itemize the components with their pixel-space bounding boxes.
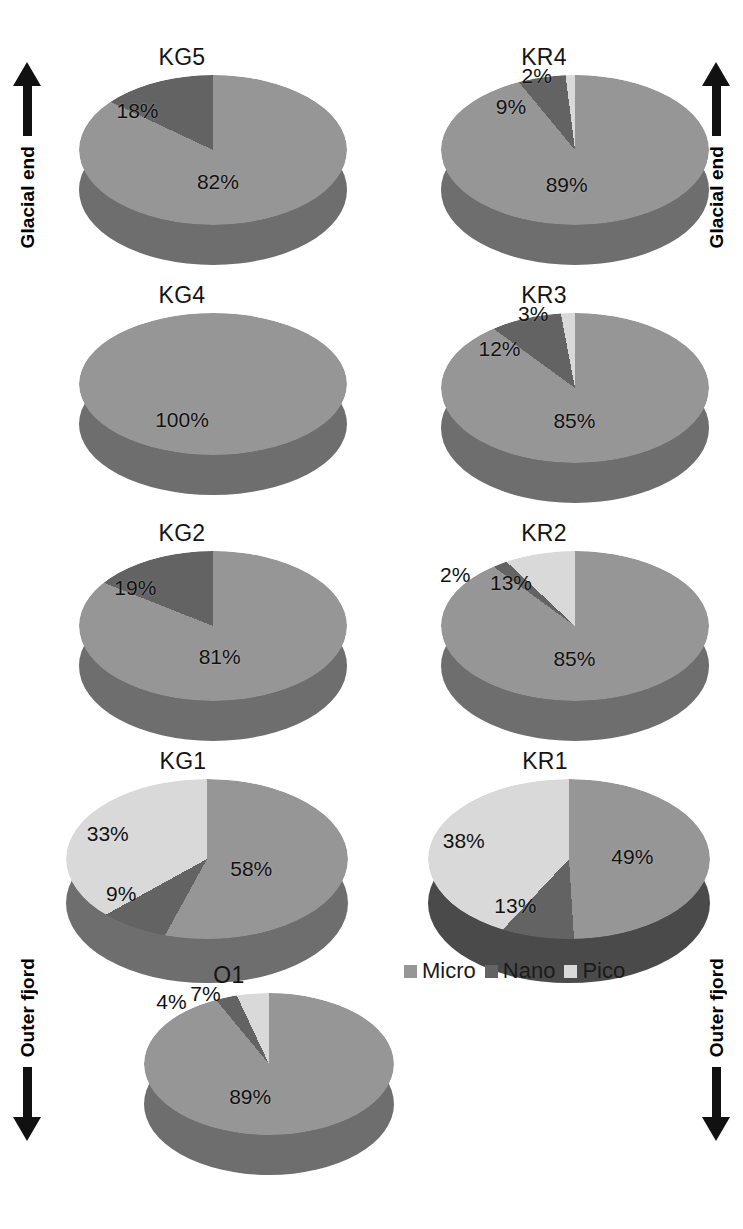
axis-glacial-end-left: Glacial end — [0, 62, 54, 248]
pie-slice-label: 9% — [106, 882, 136, 906]
pie-chart-kr4: 89%9%2% — [410, 75, 740, 265]
pie-slice-label: 9% — [496, 95, 526, 119]
axis-outer-fjord-right: Outer fjord — [689, 958, 743, 1141]
pie-top-face — [428, 779, 710, 939]
legend-item-pico: Pico — [564, 958, 625, 984]
pie-panel-kg1: KG158%9%33% — [42, 748, 324, 983]
pie-slice-label: 85% — [553, 409, 595, 433]
pie-chart-kg1: 58%9%33% — [42, 779, 372, 983]
legend-item-micro: Micro — [404, 958, 476, 984]
pie-slice-label: 89% — [229, 1085, 271, 1109]
pie-slice-label: 49% — [611, 845, 653, 869]
pie-title-kg2: KG2 — [48, 520, 316, 547]
pie-panel-kr1: KR149%13%38% — [404, 748, 686, 983]
legend-item-nano: Nano — [485, 958, 556, 984]
legend-swatch-micro — [404, 965, 417, 978]
pie-panel-o1: O189%4%7% — [104, 962, 354, 1175]
pie-slice-label: 19% — [114, 576, 156, 600]
pie-slice-label: 81% — [199, 645, 241, 669]
pie-top-face — [79, 313, 347, 455]
pie-chart-kg2: 81%19% — [48, 551, 378, 741]
pie-slice-label: 18% — [116, 99, 158, 123]
pie-slice-label: 38% — [443, 829, 485, 853]
arrow-down-icon — [12, 1067, 42, 1141]
pie-slice-label: 58% — [230, 857, 272, 881]
pie-top-face — [66, 779, 348, 939]
pie-title-kg1: KG1 — [42, 748, 324, 775]
pie-slice-label: 33% — [87, 822, 129, 846]
pie-panel-kg4: KG4100% — [48, 282, 316, 495]
pie-slice-label: 2% — [522, 64, 552, 88]
arrow-up-icon — [12, 62, 42, 136]
pie-slice-label: 2% — [440, 563, 470, 587]
pie-chart-kr3: 85%12%3% — [410, 313, 740, 503]
pie-slice-label: 89% — [546, 173, 588, 197]
pie-chart-kg5: 82%18% — [48, 75, 378, 265]
pie-slice-label: 12% — [478, 337, 520, 361]
legend-label-pico: Pico — [582, 958, 625, 984]
legend-label-nano: Nano — [503, 958, 556, 984]
pie-top-face — [441, 551, 709, 701]
pie-chart-o1: 89%4%7% — [104, 993, 434, 1175]
axis-label-outer-fjord-left: Outer fjord — [18, 958, 37, 1057]
pie-title-kr2: KR2 — [410, 520, 678, 547]
pie-title-kg4: KG4 — [48, 282, 316, 309]
pie-slice-label: 7% — [190, 982, 220, 1006]
pie-panel-kr2: KR285%2%13% — [410, 520, 678, 741]
pie-slice-label: 13% — [494, 894, 536, 918]
pie-title-kr1: KR1 — [404, 748, 686, 775]
pie-slice-label: 100% — [155, 408, 209, 432]
axis-rail-left: Glacial end Outer fjord — [0, 0, 54, 1229]
pie-slice-label: 13% — [490, 571, 532, 595]
pie-slice-label: 85% — [553, 647, 595, 671]
pie-panel-kg5: KG582%18% — [48, 44, 316, 265]
pie-panel-kr4: KR489%9%2% — [410, 44, 678, 265]
pie-panel-kg2: KG281%19% — [48, 520, 316, 741]
pie-panel-kr3: KR385%12%3% — [410, 282, 678, 503]
pie-chart-kr2: 85%2%13% — [410, 551, 740, 741]
legend-swatch-nano — [485, 965, 498, 978]
legend-swatch-pico — [564, 965, 577, 978]
pie-top-face — [441, 75, 709, 225]
pie-top-face — [79, 75, 347, 225]
pie-chart-kg4: 100% — [48, 313, 378, 495]
pie-slice-label: 82% — [197, 170, 239, 194]
pie-chart-kr1: 49%13%38% — [404, 779, 734, 983]
axis-label-glacial-end-left: Glacial end — [18, 146, 37, 248]
pie-slice-label: 3% — [518, 302, 548, 326]
pie-top-face — [441, 313, 709, 463]
legend-label-micro: Micro — [422, 958, 476, 984]
pie-title-o1: O1 — [104, 962, 354, 989]
chart-legend: MicroNanoPico — [404, 958, 625, 984]
arrow-down-icon — [701, 1067, 731, 1141]
pie-slice-label: 4% — [156, 990, 186, 1014]
pie-title-kg5: KG5 — [48, 44, 316, 71]
pie-top-face — [79, 551, 347, 701]
axis-outer-fjord-left: Outer fjord — [0, 958, 54, 1141]
